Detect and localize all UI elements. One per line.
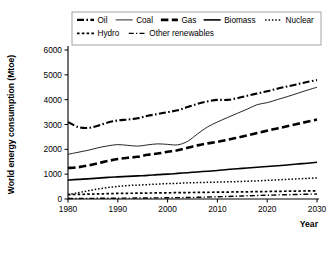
x-axis-tick-label: 2030 bbox=[308, 204, 327, 214]
x-axis-title: Year bbox=[300, 219, 319, 229]
legend-label-nuclear: Nuclear bbox=[286, 16, 314, 25]
legend-label-oil: Oil bbox=[98, 16, 108, 25]
chart-axes bbox=[68, 46, 319, 199]
series-line-coal bbox=[68, 87, 317, 154]
y-axis-tick-label: 5000 bbox=[44, 70, 63, 80]
series-line-oil bbox=[68, 80, 317, 128]
y-axis-tick-label: 1000 bbox=[44, 169, 63, 179]
series-line-biomass bbox=[68, 162, 317, 180]
x-axis-tick-label: 2000 bbox=[158, 204, 177, 214]
series-line-other-renewables bbox=[68, 194, 317, 198]
energy-consumption-line-chart: 0100020003000400050006000198019902000201… bbox=[0, 0, 335, 256]
chart-canvas: 0100020003000400050006000198019902000201… bbox=[0, 0, 335, 256]
series-line-hydro bbox=[68, 191, 317, 195]
legend-label-hydro: Hydro bbox=[98, 29, 120, 38]
y-axis-title: World energy consumption (Mtoe) bbox=[6, 55, 16, 194]
y-axis-tick-label: 3000 bbox=[44, 120, 63, 130]
legend-label-coal: Coal bbox=[136, 16, 153, 25]
y-axis-tick-label: 6000 bbox=[44, 45, 63, 55]
legend-label-other-renewables: Other renewables bbox=[149, 29, 214, 38]
x-axis-tick-label: 2010 bbox=[208, 204, 227, 214]
legend-label-biomass: Biomass bbox=[224, 16, 255, 25]
y-axis-tick-label: 2000 bbox=[44, 144, 63, 154]
x-axis-tick-label: 1990 bbox=[109, 204, 128, 214]
y-axis-tick-label: 4000 bbox=[44, 95, 63, 105]
x-axis-tick-label: 2020 bbox=[258, 204, 277, 214]
y-axis-tick-label: 0 bbox=[57, 194, 62, 204]
legend-label-gas: Gas bbox=[181, 16, 196, 25]
x-axis-tick-label: 1980 bbox=[59, 204, 78, 214]
series-line-gas bbox=[68, 120, 317, 168]
